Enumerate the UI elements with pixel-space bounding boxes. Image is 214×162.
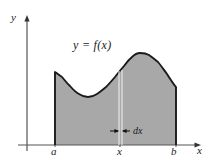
figure-canvas [0,0,214,162]
area-under-curve-figure: y x y = f(x) a x b dx [0,0,214,162]
upper-limit-label-b: b [171,146,177,157]
y-axis-label: y [11,12,16,23]
lower-limit-label-a: a [51,146,57,157]
y-axis-arrowhead [24,15,29,22]
x-axis-label: x [197,145,202,156]
differential-label-dx: dx [133,126,142,136]
curve-equation-label: y = f(x) [73,39,111,51]
sample-point-label-x: x [117,146,122,157]
